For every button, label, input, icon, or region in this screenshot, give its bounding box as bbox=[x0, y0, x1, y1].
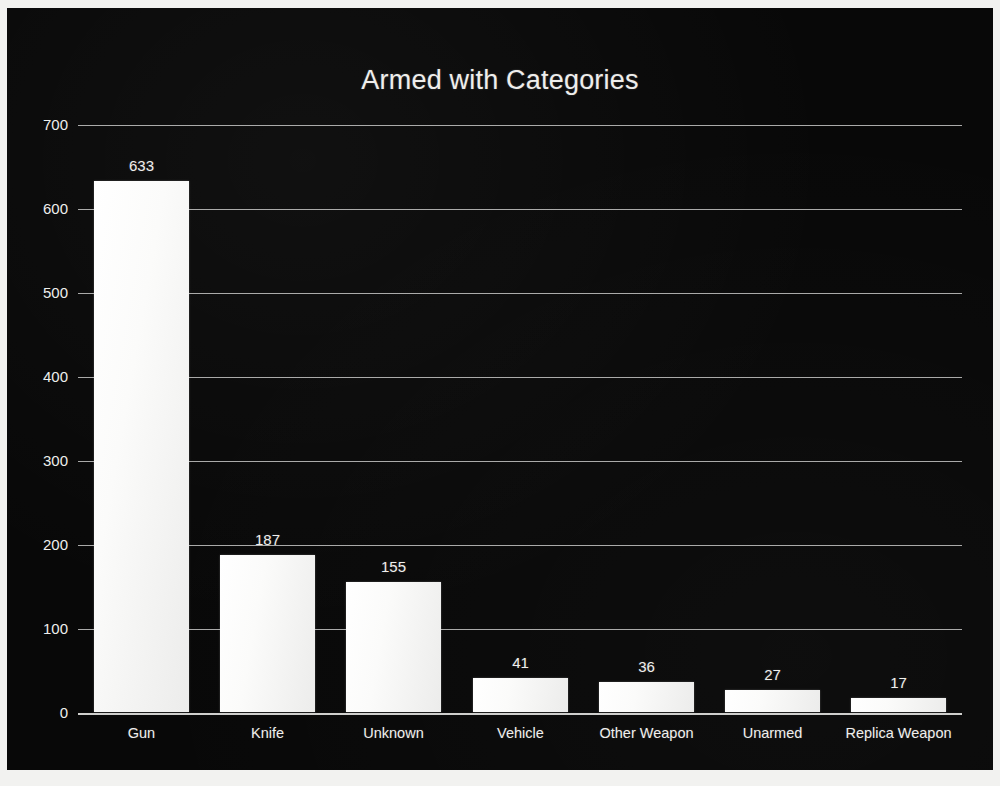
bar-vehicle[interactable] bbox=[473, 678, 568, 712]
bar-other-weapon[interactable] bbox=[599, 682, 694, 712]
y-axis-tick-label: 100 bbox=[7, 620, 68, 637]
bar-value-label: 27 bbox=[705, 666, 840, 683]
x-axis-category-label: Knife bbox=[194, 725, 341, 741]
bar-replica-weapon[interactable] bbox=[851, 698, 946, 712]
gridline-y-300 bbox=[78, 461, 962, 462]
bar-value-label: 155 bbox=[326, 558, 461, 575]
bar-value-label: 36 bbox=[579, 658, 714, 675]
x-axis-category-label: Gun bbox=[68, 725, 215, 741]
gridline-y-100 bbox=[78, 629, 962, 630]
chart-image-frame: Armed with Categories 010020030040050060… bbox=[0, 0, 1000, 786]
bar-knife[interactable] bbox=[220, 555, 315, 712]
bar-value-label: 187 bbox=[200, 531, 335, 548]
chart-canvas: Armed with Categories 010020030040050060… bbox=[7, 8, 993, 770]
bar-value-label: 17 bbox=[831, 674, 966, 691]
y-axis-tick-label: 500 bbox=[7, 284, 68, 301]
x-axis-baseline bbox=[78, 713, 962, 715]
chart-title: Armed with Categories bbox=[7, 65, 993, 96]
gridline-y-500 bbox=[78, 293, 962, 294]
gridline-y-400 bbox=[78, 377, 962, 378]
y-axis-tick-label: 600 bbox=[7, 200, 68, 217]
x-axis-category-label: Unarmed bbox=[699, 725, 846, 741]
gridline-y-600 bbox=[78, 209, 962, 210]
bar-gun[interactable] bbox=[94, 181, 189, 712]
bar-unknown[interactable] bbox=[346, 582, 441, 712]
plot-area: 0100200300400500600700633Gun187Knife155U… bbox=[78, 108, 962, 730]
x-axis-category-label: Unknown bbox=[320, 725, 467, 741]
x-axis-category-label: Replica Weapon bbox=[825, 725, 972, 741]
x-axis-category-label: Vehicle bbox=[447, 725, 594, 741]
y-axis-tick-label: 400 bbox=[7, 368, 68, 385]
bar-value-label: 41 bbox=[453, 654, 588, 671]
y-axis-tick-label: 300 bbox=[7, 452, 68, 469]
bar-value-label: 633 bbox=[74, 157, 209, 174]
bar-unarmed[interactable] bbox=[725, 690, 820, 712]
gridline-y-700 bbox=[78, 125, 962, 126]
y-axis-tick-label: 0 bbox=[7, 704, 68, 721]
y-axis-tick-label: 200 bbox=[7, 536, 68, 553]
x-axis-category-label: Other Weapon bbox=[573, 725, 720, 741]
y-axis-tick-label: 700 bbox=[7, 116, 68, 133]
